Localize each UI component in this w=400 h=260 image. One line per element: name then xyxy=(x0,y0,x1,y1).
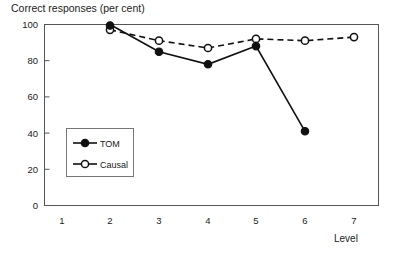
series-causal xyxy=(106,26,357,51)
data-point-causal-l6 xyxy=(301,37,308,44)
series-tom xyxy=(106,22,308,135)
data-point-causal-l3 xyxy=(155,37,162,44)
legend-swatch-tom-marker xyxy=(81,139,88,146)
data-point-tom-l4 xyxy=(204,61,211,68)
y-tick-label-60: 60 xyxy=(27,91,38,102)
x-tick-label-2: 2 xyxy=(107,215,112,226)
legend-label-tom: TOM xyxy=(100,139,120,149)
chart-legend: TOM Causal xyxy=(67,129,134,177)
chart-canvas: 0 20 40 60 80 100 1 2 3 4 5 6 7 xyxy=(0,0,400,260)
y-tick-label-100: 100 xyxy=(22,19,38,30)
x-tick-label-6: 6 xyxy=(302,215,307,226)
y-axis-tick-labels: 0 20 40 60 80 100 xyxy=(22,19,38,211)
data-point-tom-l6 xyxy=(301,128,308,135)
x-tick-label-5: 5 xyxy=(253,215,258,226)
series-tom-line xyxy=(110,25,305,132)
data-point-tom-l2 xyxy=(106,22,113,29)
data-point-causal-l7 xyxy=(350,34,357,41)
data-point-causal-l4 xyxy=(204,44,211,51)
x-tick-label-7: 7 xyxy=(351,215,356,226)
y-tick-label-0: 0 xyxy=(33,200,38,211)
y-tick-label-40: 40 xyxy=(27,128,38,139)
y-axis-ticks xyxy=(45,25,50,206)
legend-label-causal: Causal xyxy=(100,160,128,170)
plot-frame xyxy=(45,25,379,206)
x-tick-label-3: 3 xyxy=(156,215,161,226)
x-axis-tick-labels: 1 2 3 4 5 6 7 xyxy=(59,215,356,226)
x-tick-label-4: 4 xyxy=(205,215,210,226)
data-point-tom-l5 xyxy=(252,42,259,49)
y-tick-label-20: 20 xyxy=(27,164,38,175)
data-point-tom-l3 xyxy=(155,48,162,55)
x-tick-label-1: 1 xyxy=(59,215,64,226)
legend-swatch-causal-marker xyxy=(81,160,88,167)
y-tick-label-80: 80 xyxy=(27,55,38,66)
data-point-causal-l5 xyxy=(252,35,259,42)
chart-figure: Correct responses (per cent) Level 0 20 … xyxy=(0,0,400,260)
